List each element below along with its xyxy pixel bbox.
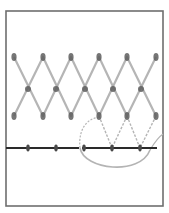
crossing-node (82, 86, 88, 92)
baseline-node (54, 145, 58, 152)
drop-link (140, 116, 156, 148)
strand-nodes (11, 53, 158, 120)
valley-node (153, 112, 158, 120)
valley-node (11, 112, 16, 120)
baseline-node (110, 145, 114, 152)
baseline-node (82, 145, 86, 152)
crossing-node (25, 86, 31, 92)
peak-node (96, 53, 101, 61)
valley-node (124, 112, 129, 120)
baseline-node (138, 145, 142, 152)
valley-node (96, 112, 101, 120)
baseline-node (26, 145, 30, 152)
drop-link (99, 116, 112, 148)
peak-node (68, 53, 73, 61)
drop-links (99, 116, 156, 148)
loop-upper-arc (80, 117, 100, 148)
drop-link (112, 116, 127, 148)
diagram-canvas (0, 0, 169, 213)
frame-border (6, 11, 163, 206)
baseline (6, 145, 157, 152)
crossing-node (110, 86, 116, 92)
peak-node (153, 53, 158, 61)
valley-node (68, 112, 73, 120)
peak-node (124, 53, 129, 61)
crossing-node (138, 86, 144, 92)
crossing-node (53, 86, 59, 92)
lattice-diagram (0, 0, 169, 213)
valley-node (40, 112, 45, 120)
peak-node (11, 53, 16, 61)
drop-link (127, 116, 140, 148)
loop-curve (80, 117, 163, 167)
peak-node (40, 53, 45, 61)
